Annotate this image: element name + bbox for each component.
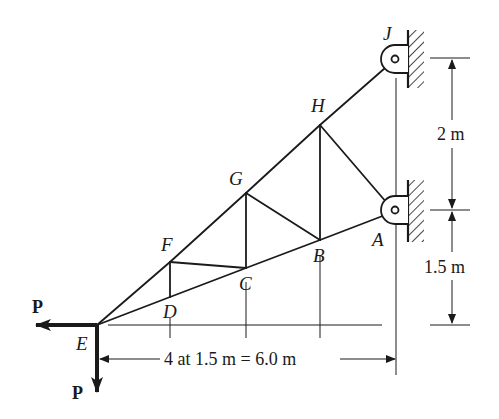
member-GH [246,125,320,193]
node-label-J: J [383,23,393,44]
member-GB [246,193,320,240]
wall-upper [408,30,424,88]
member-FG [170,193,246,262]
truss-diagram: J H G F D C B A E P P 4 at 1.5 m = 6.0 m… [0,0,499,419]
wall-lower [408,180,424,242]
node-label-B: B [313,245,325,266]
node-label-E: E [75,333,88,354]
member-HJ [320,61,393,125]
node-label-A: A [370,229,384,250]
member-ED [97,297,170,325]
member-CB [246,240,320,268]
pin-support-J [381,45,408,73]
node-label-H: H [310,95,326,116]
node-label-D: D [162,301,177,322]
node-label-F: F [160,234,173,255]
member-HA [320,125,393,210]
load-label-horizontal: P [32,297,43,317]
pin-support-A [381,196,408,224]
node-label-C: C [239,273,252,294]
member-FC [170,262,246,268]
dimension-vertical-lower-label: 1.5 m [424,257,465,277]
dimension-vertical-upper-label: 2 m [437,124,465,144]
member-EF [97,262,170,325]
dimension-horizontal-label: 4 at 1.5 m = 6.0 m [164,349,296,369]
node-label-G: G [229,168,243,189]
member-DC [170,268,246,297]
load-label-vertical: P [72,383,83,403]
